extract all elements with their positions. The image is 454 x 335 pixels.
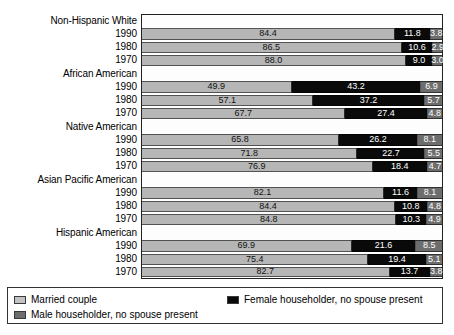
segment-married-couple: 84.4 [142, 201, 395, 212]
segment-male-householder: 4.9 [427, 214, 442, 225]
segment-female-householder: 21.6 [352, 240, 417, 251]
chart-bar-row: 197067.727.44.8 [7, 107, 443, 120]
segment-value-label: 49.9 [208, 82, 226, 91]
chart-bar-row: 198075.419.45.1 [7, 253, 443, 266]
bar-track: 71.822.75.5 [141, 147, 443, 160]
segment-value-label: 11.6 [392, 188, 409, 197]
segment-male-householder: 5.5 [425, 148, 442, 159]
segment-value-label: 57.1 [218, 96, 236, 105]
segment-female-householder: 10.8 [395, 201, 427, 212]
segment-value-label: 11.8 [404, 29, 421, 38]
segment-value-label: 3.8 [430, 29, 443, 38]
group-category-label: Hispanic American [7, 226, 141, 239]
segment-male-householder: 3.8 [431, 267, 442, 277]
legend-grid: Married coupleFemale householder, no spo… [14, 292, 436, 322]
segment-female-householder: 11.6 [384, 187, 418, 198]
segment-male-householder: 8.1 [418, 134, 442, 145]
chart-bar-row: 199069.921.68.5 [7, 239, 443, 252]
bar-year-label: 1970 [7, 160, 141, 173]
segment-value-label: 86.5 [262, 43, 280, 52]
bar-track [141, 120, 443, 133]
segment-male-householder: 6.9 [421, 81, 442, 92]
chart-group-row: Hispanic American [7, 226, 443, 239]
chart-bar-row: 198071.822.75.5 [7, 147, 443, 160]
segment-value-label: 43.2 [347, 82, 365, 91]
segment-male-householder: 8.5 [416, 240, 442, 251]
segment-married-couple: 49.9 [142, 81, 292, 92]
segment-value-label: 75.4 [246, 255, 264, 264]
segment-value-label: 3.8 [430, 267, 443, 276]
segment-female-householder: 11.8 [395, 28, 430, 39]
bar-track: 76.918.44.7 [141, 160, 443, 173]
bar-year-label: 1980 [7, 94, 141, 107]
segment-male-householder: 4.7 [428, 161, 442, 172]
stacked-bar: 71.822.75.5 [142, 148, 442, 159]
stacked-bar-chart: Non-Hispanic White199084.411.83.8198086.… [0, 0, 454, 335]
legend-swatch-male-householder [14, 311, 26, 319]
segment-value-label: 6.9 [425, 82, 438, 91]
segment-married-couple: 88.0 [142, 55, 406, 66]
stacked-bar: 82.111.68.1 [142, 187, 442, 198]
bar-track [141, 67, 443, 80]
segment-value-label: 4.8 [429, 202, 442, 211]
segment-value-label: 88.0 [265, 56, 283, 65]
segment-female-householder: 10.6 [402, 42, 434, 53]
segment-value-label: 8.1 [424, 135, 437, 144]
segment-value-label: 4.9 [428, 215, 441, 224]
group-category-label: African American [7, 67, 141, 80]
segment-value-label: 82.1 [254, 188, 272, 197]
segment-value-label: 5.5 [427, 149, 440, 158]
bar-year-label: 1970 [7, 213, 141, 226]
segment-value-label: 4.7 [429, 162, 442, 171]
chart-bar-row: 198086.510.62.9 [7, 41, 443, 54]
legend-item: Female householder, no spouse present [227, 292, 436, 307]
legend-item: Male householder, no spouse present [14, 307, 223, 322]
segment-value-label: 84.4 [259, 29, 277, 38]
bar-track [141, 226, 443, 239]
bar-year-label: 1990 [7, 133, 141, 146]
segment-married-couple: 67.7 [142, 108, 345, 119]
segment-value-label: 26.2 [369, 135, 387, 144]
chart-bar-row: 198084.410.84.8 [7, 200, 443, 213]
stacked-bar: 65.826.28.1 [142, 134, 442, 145]
segment-female-householder: 10.3 [396, 214, 427, 225]
segment-value-label: 82.7 [257, 267, 275, 276]
bar-track [141, 173, 443, 186]
segment-value-label: 8.1 [424, 188, 437, 197]
segment-value-label: 21.6 [375, 241, 393, 250]
stacked-bar: 69.921.68.5 [142, 240, 442, 251]
stacked-bar: 82.713.73.8 [142, 267, 442, 277]
group-category-label: Non-Hispanic White [7, 14, 141, 27]
legend-item-label: Married couple [31, 294, 97, 305]
stacked-bar: 84.810.34.9 [142, 214, 442, 225]
bar-year-label: 1990 [7, 80, 141, 93]
legend-item-label: Male householder, no spouse present [31, 309, 198, 320]
segment-female-householder: 19.4 [368, 254, 426, 265]
segment-female-householder: 27.4 [345, 108, 427, 119]
chart-plot-area: Non-Hispanic White199084.411.83.8198086.… [7, 14, 443, 279]
stacked-bar: 75.419.45.1 [142, 254, 442, 265]
chart-group-row: Native American [7, 120, 443, 133]
segment-value-label: 9.0 [413, 56, 426, 65]
segment-value-label: 5.7 [427, 96, 440, 105]
chart-legend: Married coupleFemale householder, no spo… [7, 287, 443, 324]
chart-group-row: Non-Hispanic White [7, 14, 443, 27]
stacked-bar: 84.411.83.8 [142, 28, 442, 39]
segment-married-couple: 71.8 [142, 148, 357, 159]
segment-value-label: 67.7 [234, 109, 252, 118]
stacked-bar: 88.09.03.0 [142, 55, 442, 66]
segment-married-couple: 86.5 [142, 42, 402, 53]
segment-value-label: 3.0 [431, 56, 444, 65]
chart-bar-row: 197084.810.34.9 [7, 213, 443, 226]
stacked-bar: 84.410.84.8 [142, 201, 442, 212]
segment-value-label: 5.1 [428, 255, 441, 264]
bar-track: 65.826.28.1 [141, 133, 443, 146]
segment-value-label: 2.9 [431, 43, 444, 52]
segment-value-label: 84.8 [260, 215, 278, 224]
segment-female-householder: 9.0 [406, 55, 433, 66]
stacked-bar: 76.918.44.7 [142, 161, 442, 172]
segment-male-householder: 3.8 [431, 28, 442, 39]
chart-group-row: Asian Pacific American [7, 173, 443, 186]
segment-male-householder: 2.9 [433, 42, 442, 53]
stacked-bar: 57.137.25.7 [142, 95, 442, 106]
